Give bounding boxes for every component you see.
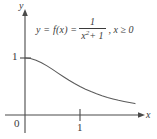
equation-domain-condition: , x ≥ 0	[109, 24, 134, 35]
y-axis-tick-label-1: 1	[12, 51, 18, 62]
equation-fraction: 1 x2+ 1	[79, 17, 105, 41]
function-curve	[25, 58, 135, 104]
function-graph-figure: y x 0 1 1 y = f(x) = 1 x2+ 1 , x ≥ 0	[0, 0, 157, 139]
denominator-tail: + 1	[89, 30, 103, 41]
x-axis-arrowhead	[138, 112, 145, 118]
fraction-numerator: 1	[88, 17, 97, 28]
x-axis-label: x	[146, 110, 150, 120]
origin-label: 0	[14, 118, 20, 129]
y-axis-label: y	[19, 1, 23, 11]
x-axis-tick-label-1: 1	[77, 122, 83, 133]
fraction-denominator: x2+ 1	[79, 30, 105, 42]
equation-annotation: y = f(x) = 1 x2+ 1 , x ≥ 0	[36, 17, 133, 41]
equation-left-side: y = f(x) =	[36, 24, 77, 35]
